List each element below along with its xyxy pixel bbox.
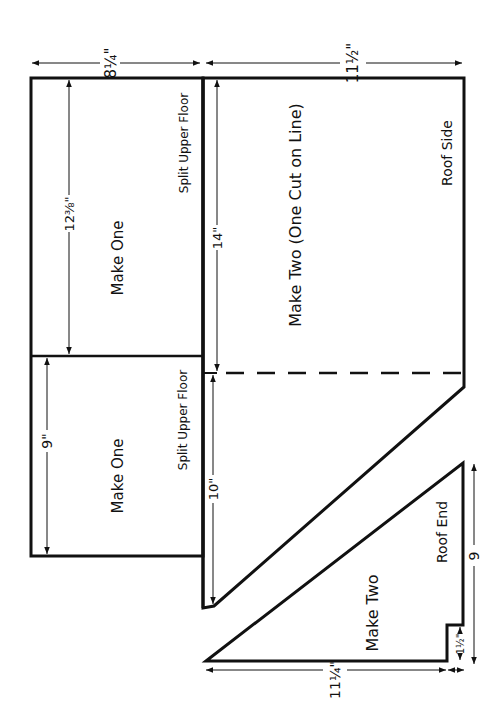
dim-label-9: 9" [39,433,55,448]
dim-label-12-3-8: 12⅜" [62,196,77,231]
dim-label-14: 14" [210,227,225,250]
roof-end-piece [206,463,463,661]
dim-label-8-quarter: 8¼" [102,48,120,79]
dim-label-notch: 1½" [455,634,466,655]
roof-side-name: Roof Side [439,120,455,186]
piece-b-name: Split Upper Floor [176,370,190,470]
dim-label-roof-end-base: 11¼" [327,661,343,699]
pattern-diagram: 8¼" 11½" 12⅜" 9" Make One Split Upper Fl… [0,0,504,720]
roof-end-name: Roof End [434,501,450,563]
piece-a-quantity: Make One [109,221,127,296]
piece-b-quantity: Make One [109,439,127,514]
roof-side-piece [203,78,464,608]
dim-label-10: 10" [206,478,221,501]
dim-label-roof-end-height: 9 [466,552,482,561]
roof-side-quantity: Make Two (One Cut on Line) [286,103,305,327]
roof-end-quantity: Make Two [363,574,382,651]
piece-a-name: Split Upper Floor [177,93,191,193]
